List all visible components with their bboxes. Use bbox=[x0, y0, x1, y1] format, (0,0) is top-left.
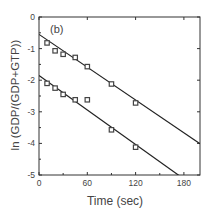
x-axis-label: Time (sec) bbox=[87, 194, 143, 208]
axis-ticks: 0601201800-1-2-3-4-5 bbox=[27, 12, 200, 188]
data-point-lower bbox=[61, 92, 65, 96]
data-point-lower bbox=[53, 86, 57, 90]
chart: 0601201800-1-2-3-4-5 (b) Time (sec) ln (… bbox=[0, 0, 211, 215]
panel-label: (b) bbox=[50, 23, 63, 35]
fit-lines bbox=[39, 34, 200, 190]
y-tick-label: -1 bbox=[27, 44, 35, 54]
x-tick-label: 60 bbox=[83, 178, 93, 188]
data-point-upper bbox=[133, 101, 137, 105]
data-point-upper bbox=[109, 82, 113, 86]
data-point-lower bbox=[45, 81, 49, 85]
y-axis-label: ln (GDP/(GDP+GTP)) bbox=[9, 39, 21, 150]
y-tick-label: -4 bbox=[27, 138, 35, 148]
data-point-lower bbox=[73, 98, 77, 102]
data-point-upper bbox=[73, 55, 77, 59]
data-point-upper bbox=[61, 52, 65, 56]
data-point-lower bbox=[133, 145, 137, 149]
data-point-lower bbox=[85, 98, 89, 102]
y-tick-label: -2 bbox=[27, 75, 35, 85]
data-point-upper bbox=[85, 64, 89, 68]
data-points bbox=[45, 41, 138, 150]
y-tick-label: 0 bbox=[30, 12, 35, 22]
data-point-upper bbox=[53, 49, 57, 53]
x-tick-label: 180 bbox=[177, 178, 191, 188]
x-tick-label: 0 bbox=[37, 178, 42, 188]
y-tick-label: -3 bbox=[27, 107, 35, 117]
data-point-lower bbox=[109, 128, 113, 132]
x-tick-label: 120 bbox=[129, 178, 143, 188]
data-point-upper bbox=[45, 41, 49, 45]
fit-line-upper bbox=[39, 34, 200, 143]
y-tick-label: -5 bbox=[27, 170, 35, 180]
